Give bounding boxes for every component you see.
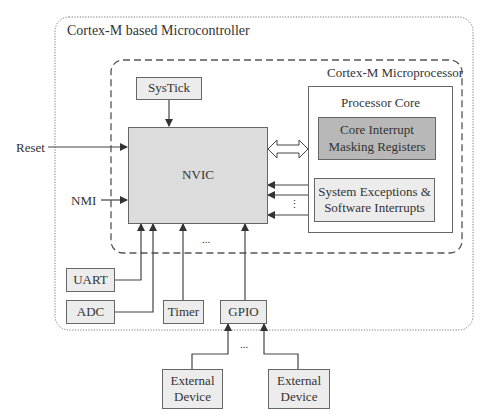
vertical-ellipsis: ⋮ [289,199,300,210]
bidirectional-arrow-nvic-core [268,140,308,158]
nmi-label: NMI [71,194,96,207]
uart-label: UART [73,272,108,288]
ellipsis-nvic-inputs: ... [202,234,210,245]
sysexc-line1: System Exceptions & [318,184,431,200]
arrow-ext1-gpio [192,324,228,369]
gpio-block: GPIO [220,300,267,324]
microcontroller-title: Cortex-M based Microcontroller [67,24,250,38]
sysexc-line2: Software Interrupts [324,200,425,216]
uart-block: UART [66,268,115,292]
ext2-line2: Device [281,389,318,405]
gpio-label: GPIO [228,304,258,320]
timer-block: Timer [163,300,204,324]
timer-label: Timer [168,304,199,320]
core-interrupt-masking-block: Core Interrupt Masking Registers [318,117,436,160]
external-device-1: External Device [162,369,223,409]
systick-label: SysTick [148,80,190,96]
nvic-block: NVIC [128,127,268,224]
microprocessor-label: Cortex-M Microprocessor [327,66,463,79]
system-exceptions-block: System Exceptions & Software Interrupts [314,178,435,222]
ext2-line1: External [277,373,321,389]
adc-label: ADC [77,304,104,320]
adc-block: ADC [66,300,115,324]
external-device-2: External Device [268,369,330,409]
ext1-line2: Device [174,389,211,405]
nvic-label: NVIC [182,167,214,183]
ellipsis-gpio-inputs: ... [240,339,248,350]
ext1-line1: External [170,373,214,389]
arrow-adc-nvic [115,224,153,312]
reset-label: Reset [16,141,45,154]
arrow-ext2-gpio [264,324,298,369]
masking-line2: Masking Registers [328,139,425,155]
masking-line1: Core Interrupt [340,122,414,138]
processor-core-label: Processor Core [341,95,420,111]
systick-block: SysTick [136,77,202,100]
